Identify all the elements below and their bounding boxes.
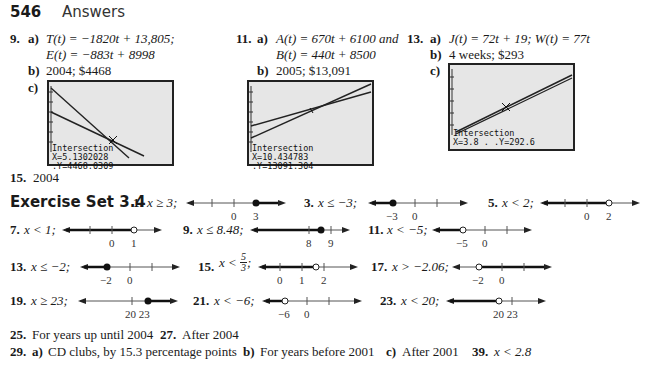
part-c-label: c) <box>430 63 440 79</box>
problem-29-a-label: a) <box>32 344 43 360</box>
item-inequality: x ≥ 23; <box>31 293 68 309</box>
item-inequality: x < 2; <box>502 195 534 211</box>
part-b-answer: 2004; $4468 <box>46 63 111 79</box>
svg-text:9: 9 <box>328 237 334 249</box>
number-line-19: 20 23 <box>78 294 178 322</box>
svg-text:0: 0 <box>231 210 237 222</box>
item-number: 19. <box>10 293 26 309</box>
item-number: 3. <box>304 195 314 211</box>
number-line-11: −5 0 <box>432 223 532 251</box>
problem-39-answer: x < 2.8 <box>494 344 531 360</box>
svg-text:0: 0 <box>109 237 115 249</box>
number-line-23: 20 23 <box>446 294 546 322</box>
part-a-label: a) <box>257 31 268 47</box>
svg-text:20 23: 20 23 <box>493 308 518 320</box>
item-inequality: x ≤ −2; <box>31 259 70 275</box>
svg-text:1: 1 <box>131 237 137 249</box>
part-a-label: a) <box>430 31 441 47</box>
calculator-screen: Intersection X=5.1302028 .Y=4468.0309 <box>47 80 174 166</box>
equation-B: B(t) = 440t + 8500 <box>276 47 376 63</box>
screen-readout: X=10.434783 .Y=13091.304 <box>252 153 372 171</box>
screen-readout: X=5.1302028 .Y=4468.0309 <box>52 153 172 171</box>
page-header-title: Answers <box>62 3 125 21</box>
svg-text:3: 3 <box>253 210 259 222</box>
number-line-1: 0 3 <box>186 196 286 224</box>
svg-text:−2: −2 <box>472 274 484 286</box>
page-number: 546 <box>10 3 41 21</box>
screen-readout: X=3.8 . .Y=292.6 <box>453 138 535 147</box>
part-b-answer: 4 weeks; $293 <box>449 47 524 63</box>
svg-text:−3: −3 <box>386 210 398 222</box>
equation-J-W: J(t) = 72t + 19; W(t) = 77t <box>449 31 590 47</box>
fraction: 5 3 <box>240 252 247 273</box>
item-inequality: x < 5 3 ; <box>219 252 251 273</box>
problem-25-number: 25. <box>10 327 26 343</box>
svg-text:−6: −6 <box>278 308 290 320</box>
number-line-21: −6 0 <box>262 294 362 322</box>
item-inequality: x > −2.06; <box>392 259 449 275</box>
number-line-7: 0 1 <box>62 223 162 251</box>
equation-A: A(t) = 670t + 6100 and <box>276 31 399 47</box>
svg-text:2: 2 <box>606 210 612 222</box>
svg-text:20 23: 20 23 <box>125 308 150 320</box>
svg-text:8: 8 <box>306 237 312 249</box>
item-inequality: x < −5; <box>387 222 428 238</box>
item-number: 17. <box>371 259 387 275</box>
part-b-label: b) <box>430 47 442 63</box>
svg-text:0: 0 <box>277 274 283 286</box>
part-c-label: c) <box>28 80 38 96</box>
problem-29-c-answer: After 2001 <box>402 344 459 360</box>
problem-29-number: 29. <box>10 344 26 360</box>
part-a-label: a) <box>28 31 39 47</box>
svg-text:−5: −5 <box>456 237 468 249</box>
item-number: 1. <box>133 195 143 211</box>
svg-text:0: 0 <box>482 237 488 249</box>
problem-29-b-answer: For years before 2001 <box>260 344 374 360</box>
item-inequality: x < −6; <box>214 293 255 309</box>
problem-29-a-answer: CD clubs, by 15.3 percentage points <box>48 344 237 360</box>
problem-27-number: 27. <box>160 327 176 343</box>
svg-text:−2: −2 <box>100 274 112 286</box>
svg-text:0: 0 <box>584 210 590 222</box>
item-inequality: x < 1; <box>24 222 56 238</box>
svg-text:1: 1 <box>299 274 305 286</box>
item-number: 21. <box>193 293 209 309</box>
svg-text:0: 0 <box>127 274 133 286</box>
problem-29-b-label: b) <box>243 344 255 360</box>
part-b-answer: 2005; $13,091 <box>276 63 351 79</box>
item-number: 9. <box>183 222 193 238</box>
part-b-label: b) <box>257 63 269 79</box>
section-title: Exercise Set 3.4 <box>10 193 146 211</box>
number-line-5: 0 2 <box>540 196 640 224</box>
number-line-9: 8 9 <box>250 223 350 251</box>
item-inequality: x < 20; <box>401 293 439 309</box>
number-line-3: −3 0 <box>368 196 468 224</box>
problem-15-number: 15. <box>10 170 26 186</box>
equation-T: T(t) = −1820t + 13,805; <box>46 31 175 47</box>
problem-number: 11. <box>236 31 252 47</box>
problem-39-number: 39. <box>472 344 488 360</box>
number-line-15: 0 1 2 <box>258 260 358 288</box>
calculator-screen: Intersection X=10.434783 .Y=13091.304 <box>247 80 374 166</box>
item-number: 7. <box>10 222 20 238</box>
number-line-17: −2 0 <box>452 260 552 288</box>
item-number: 23. <box>380 293 396 309</box>
problem-25-answer: For years up until 2004 <box>32 327 153 343</box>
item-number: 11. <box>368 222 384 238</box>
problem-number: 9. <box>10 31 20 47</box>
svg-text:2: 2 <box>321 274 327 286</box>
equation-E: E(t) = −883t + 8998 <box>46 47 155 63</box>
item-inequality: x ≥ 3; <box>147 195 177 211</box>
item-number: 5. <box>488 195 498 211</box>
number-line-13: −2 0 <box>80 260 180 288</box>
svg-text:0: 0 <box>499 274 505 286</box>
svg-text:0: 0 <box>412 210 418 222</box>
item-inequality: x ≤ −3; <box>318 195 357 211</box>
item-inequality: x ≤ 8.48; <box>197 222 243 238</box>
problem-27-answer: After 2004 <box>182 327 239 343</box>
problem-15-answer: 2004 <box>33 170 59 186</box>
item-number: 15. <box>198 259 214 275</box>
item-number: 13. <box>10 259 26 275</box>
problem-number: 13. <box>407 31 423 47</box>
calculator-screen: Intersection X=3.8 . .Y=292.6 <box>448 63 575 151</box>
